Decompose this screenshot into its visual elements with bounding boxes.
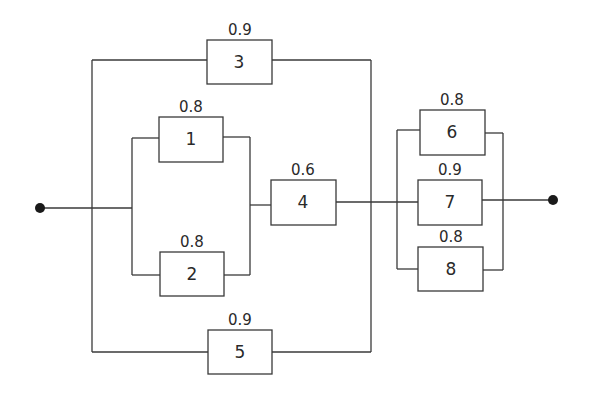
block-6-reliability: 0.8 [440, 91, 464, 109]
block-3-reliability: 0.9 [228, 21, 252, 39]
block-5-id: 5 [235, 342, 246, 362]
block-2-reliability: 0.8 [180, 233, 204, 251]
block-5: 0.9 5 [208, 311, 272, 374]
block-1-id: 1 [186, 129, 197, 149]
block-1: 0.8 1 [159, 98, 223, 162]
block-6: 0.8 6 [420, 91, 485, 155]
block-1-reliability: 0.8 [179, 98, 203, 116]
block-4: 0.6 4 [271, 161, 336, 225]
block-8-reliability: 0.8 [439, 228, 463, 246]
output-terminal [548, 195, 558, 205]
block-5-reliability: 0.9 [228, 311, 252, 329]
block-2: 0.8 2 [160, 233, 224, 296]
input-terminal [35, 203, 45, 213]
block-2-id: 2 [187, 264, 198, 284]
block-8-id: 8 [446, 259, 457, 279]
block-8: 0.8 8 [418, 228, 483, 291]
block-4-id: 4 [298, 192, 309, 212]
block-7-reliability: 0.9 [438, 161, 462, 179]
block-7-id: 7 [445, 192, 456, 212]
block-6-id: 6 [447, 122, 458, 142]
block-4-reliability: 0.6 [291, 161, 315, 179]
block-3-id: 3 [234, 52, 245, 72]
block-3: 0.9 3 [207, 21, 272, 84]
block-7: 0.9 7 [418, 161, 482, 225]
reliability-block-diagram: 0.9 3 0.8 1 0.8 2 0.6 4 0.9 5 0.8 6 0.9 … [0, 0, 589, 395]
